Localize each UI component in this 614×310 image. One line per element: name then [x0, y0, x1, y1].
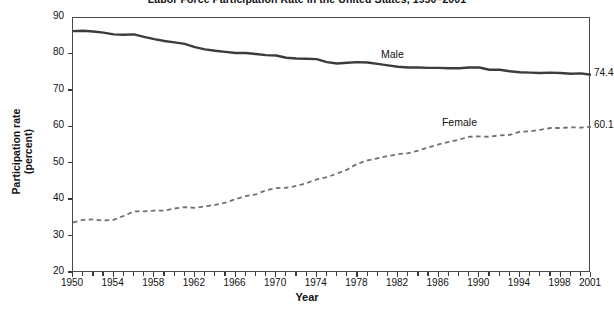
series-label-male: Male [381, 48, 404, 60]
x-tick-label-1974: 1974 [296, 277, 336, 288]
series-line-female [73, 127, 591, 222]
x-tick-label-1966: 1966 [215, 277, 255, 288]
y-tick-label-20: 20 [34, 265, 64, 276]
plot-area [72, 17, 590, 272]
series-canvas [73, 18, 591, 273]
y-axis-title: Participation rate (percent) [11, 92, 34, 212]
series-label-female: Female [442, 116, 477, 128]
y-tick-label-30: 30 [34, 229, 64, 240]
y-axis-title-line2: (percent) [22, 92, 34, 212]
x-tick-label-1950: 1950 [52, 277, 92, 288]
y-tick-label-90: 90 [34, 10, 64, 21]
chart-container: Labor Force Participation Rate in the Un… [0, 0, 614, 310]
y-tick-label-60: 60 [34, 119, 64, 130]
series-line-male [73, 31, 591, 75]
y-tick-label-50: 50 [34, 156, 64, 167]
end-value-female: 60.1 [594, 119, 613, 130]
x-tick-label-2001: 2001 [570, 277, 610, 288]
y-tick-label-40: 40 [34, 192, 64, 203]
x-tick-label-1994: 1994 [499, 277, 539, 288]
chart-title: Labor Force Participation Rate in the Un… [0, 0, 614, 5]
y-tick-label-80: 80 [34, 46, 64, 57]
x-tick-label-1962: 1962 [174, 277, 214, 288]
y-tick-label-70: 70 [34, 83, 64, 94]
x-tick-label-1970: 1970 [255, 277, 295, 288]
y-axis-title-line1: Participation rate [11, 92, 23, 212]
end-value-male: 74.4 [594, 67, 613, 78]
x-tick-label-1982: 1982 [377, 277, 417, 288]
x-tick-label-1986: 1986 [418, 277, 458, 288]
x-axis-title: Year [0, 291, 614, 303]
x-tick-label-1990: 1990 [458, 277, 498, 288]
x-tick-label-1954: 1954 [93, 277, 133, 288]
x-tick-label-1978: 1978 [336, 277, 376, 288]
x-tick-label-1958: 1958 [133, 277, 173, 288]
